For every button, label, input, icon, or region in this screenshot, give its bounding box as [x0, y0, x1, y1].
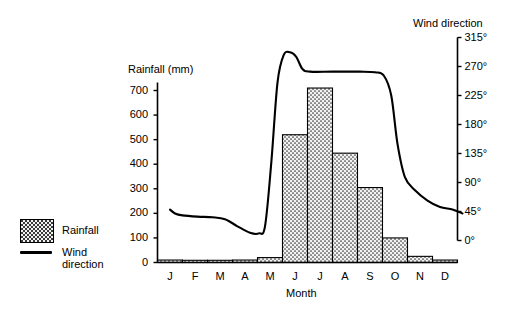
x-axis-month-label: S: [356, 271, 384, 282]
left-axis-tick-label: 500: [0, 134, 148, 145]
right-axis-tick-label: 315°: [465, 32, 488, 43]
x-axis-month-label: D: [431, 271, 459, 282]
rainfall-bar: [383, 238, 408, 263]
left-axis-tick-label: 700: [0, 85, 148, 96]
x-axis-month-label: O: [381, 271, 409, 282]
left-axis-tick-label: 200: [0, 207, 148, 218]
left-axis-tick-label: 0: [0, 257, 148, 268]
x-axis-month-label: J: [306, 271, 334, 282]
rainfall-bar: [408, 256, 433, 262]
x-axis-month-label: J: [281, 271, 309, 282]
x-axis-month-label: J: [156, 271, 184, 282]
right-axis-tick-label: 135°: [465, 148, 488, 159]
right-axis-tick-label: 225°: [465, 90, 488, 101]
right-axis-tick-label: 45°: [465, 206, 482, 217]
rainfall-bar: [358, 188, 383, 263]
left-axis-tick-label: 400: [0, 158, 148, 169]
x-axis-month-label: F: [181, 271, 209, 282]
right-axis-tick-label: 90°: [465, 177, 482, 188]
rainfall-bar: [333, 153, 358, 262]
rainfall-bar: [283, 135, 308, 263]
rainfall-bar: [308, 88, 333, 262]
x-axis-month-label: M: [206, 271, 234, 282]
right-axis: [458, 38, 462, 241]
x-axis-month-label: N: [406, 271, 434, 282]
right-axis-tick-label: 0°: [465, 235, 476, 246]
x-axis-month-label: A: [331, 271, 359, 282]
left-axis: [154, 83, 158, 263]
left-axis-tick-label: 100: [0, 232, 148, 243]
x-axis-month-label: M: [256, 271, 284, 282]
right-axis-tick-label: 270°: [465, 61, 488, 72]
left-axis-tick-label: 600: [0, 109, 148, 120]
x-axis-month-label: A: [231, 271, 259, 282]
left-axis-tick-label: 300: [0, 183, 148, 194]
chart-root: Rainfall Wind direction Rainfall (mm) Wi…: [0, 0, 507, 310]
rainfall-bars: [158, 88, 458, 262]
right-axis-tick-label: 180°: [465, 119, 488, 130]
